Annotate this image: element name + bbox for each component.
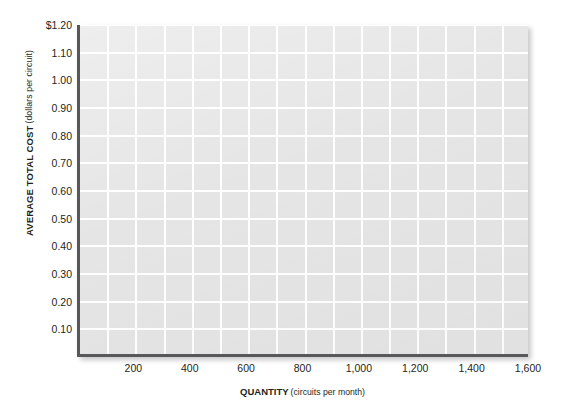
y-axis-tick-label: 0.60 [38,186,72,197]
x-axis-tick-label: 400 [181,362,199,375]
y-axis-tick-label: 0.10 [38,324,72,335]
gridline-vertical [361,25,363,354]
gridline-vertical [276,25,278,354]
y-axis-tick-label: 0.70 [38,158,72,169]
gridline-vertical [474,25,476,354]
gridline-vertical [333,25,335,354]
gridline-vertical [192,25,194,354]
x-axis-tick-label: 1,200 [402,362,428,375]
y-axis-tick-labels: $1.201.101.000.900.800.700.600.500.400.3… [38,25,72,357]
x-axis-tick-label: 1,000 [346,362,372,375]
gridline-vertical [502,25,504,354]
gridline-vertical [445,25,447,354]
x-axis-tick-label: 1,400 [458,362,484,375]
y-axis-tick-label: $1.20 [38,20,72,31]
y-axis-tick-label: 0.50 [38,213,72,224]
x-axis-title: QUANTITY(circuits per month) [77,386,528,397]
y-axis-tick-label: 0.80 [38,130,72,141]
plot-area [77,25,528,357]
grid-layer [80,25,528,354]
y-axis-title-unit: (dollars per circuit) [24,50,34,124]
x-axis-title-main: QUANTITY [240,386,289,397]
gridline-vertical [248,25,250,354]
gridline-vertical [135,25,137,354]
y-axis-tick-label: 1.10 [38,47,72,58]
y-axis-title-main: AVERAGE TOTAL COST [24,126,35,236]
gridline-vertical [164,25,166,354]
x-axis-tick-label: 1,600 [515,362,541,375]
x-axis-tick-labels: 2004006008001,0001,2001,4001,600 [77,362,528,378]
y-axis-tick-label: 0.40 [38,241,72,252]
y-axis-title: AVERAGE TOTAL COST (dollars per circuit) [22,0,36,313]
x-axis-tick-label: 600 [237,362,255,375]
gridline-vertical [220,25,222,354]
gridline-vertical [389,25,391,354]
y-axis-tick-label: 1.00 [38,75,72,86]
x-axis-title-unit: (circuits per month) [291,387,365,397]
chart-figure: AVERAGE TOTAL COST (dollars per circuit)… [0,0,563,420]
gridline-vertical [305,25,307,354]
y-axis-tick-label: 0.20 [38,296,72,307]
y-axis-tick-label: 0.90 [38,103,72,114]
y-axis-tick-label: 0.30 [38,269,72,280]
x-axis-tick-label: 200 [125,362,143,375]
gridline-vertical [417,25,419,354]
gridline-vertical [107,25,109,354]
x-axis-tick-label: 800 [294,362,312,375]
